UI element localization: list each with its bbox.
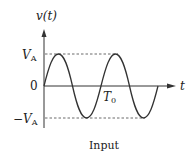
tick-label-zero: 0 — [30, 79, 38, 93]
period-label: T0 — [103, 90, 116, 105]
sine-wave-diagram: v(t) t VA 0 −VA T0 Input — [0, 0, 190, 154]
x-axis-arrow-icon — [167, 84, 176, 89]
tick-label-neg-va: −VA — [13, 112, 38, 127]
tick-label-va: VA — [22, 48, 37, 63]
y-axis-arrow-icon — [42, 29, 47, 37]
y-axis-label: v(t) — [36, 9, 57, 23]
x-axis-label: t — [180, 79, 185, 93]
diagram-caption: Input — [89, 139, 120, 152]
